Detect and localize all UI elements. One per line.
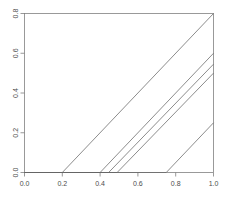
y-axis-tick-label: 0.8 — [12, 9, 19, 19]
x-axis-tick-label: 0.4 — [95, 180, 105, 187]
plot-background — [0, 0, 228, 202]
x-axis-tick-label: 0.0 — [20, 180, 30, 187]
chart-canvas: 0.00.20.40.60.81.0 0.00.20.40.60.8 — [0, 0, 228, 202]
y-axis-tick-label: 0.6 — [12, 48, 19, 58]
x-axis-tick-label: 0.6 — [133, 180, 143, 187]
y-axis-tick-label: 0.2 — [12, 128, 19, 138]
x-axis-tick-label: 0.2 — [57, 180, 67, 187]
x-axis-tick-label: 1.0 — [209, 180, 219, 187]
chart-container: 0.00.20.40.60.81.0 0.00.20.40.60.8 — [0, 0, 228, 202]
y-axis-tick-label: 0.4 — [12, 88, 19, 98]
y-axis-tick-label: 0.0 — [12, 168, 19, 178]
x-axis-tick-label: 0.8 — [171, 180, 181, 187]
